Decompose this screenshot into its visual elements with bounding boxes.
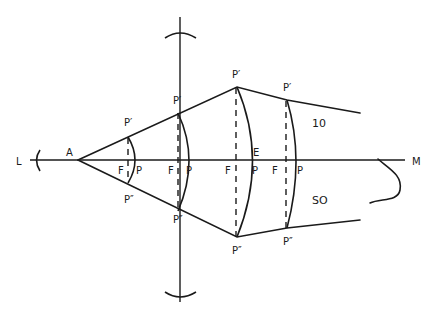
wavefront-2-pole: P [186, 165, 192, 176]
optical-axis [30, 150, 405, 171]
wavefront-3-pole: P [252, 165, 258, 176]
wavefront-3 [236, 87, 253, 237]
wavefront-4-pole: P [297, 165, 303, 176]
wavefront-1-pole: P [136, 165, 142, 176]
wavefront-4 [286, 100, 296, 228]
wavefront-2-top: P′ [173, 95, 182, 106]
wavefront-4-top: P′ [283, 82, 292, 93]
break-squiggle [370, 159, 400, 203]
wavefront-4-bottom: P″ [283, 236, 293, 247]
wavefront-3-extra: E [253, 147, 259, 158]
wavefront-1-focus: F [118, 165, 124, 176]
wavefront-3-focus: F [225, 165, 231, 176]
wavefront-2-bottom: P″ [173, 214, 183, 225]
source-label: A [66, 147, 73, 158]
wavefront-1-top: P′ [124, 117, 133, 128]
region-label-lower: SO [312, 194, 328, 207]
axis-label-left: L [16, 156, 22, 167]
wavefront-3-top: P′ [232, 69, 241, 80]
wavefront-diagram: L M A P′ P″ F P P′ P″ F P P′ P″ F P E P [0, 0, 440, 311]
axis-label-right: M [412, 156, 421, 167]
wavefront-4-focus: F [272, 165, 278, 176]
wavefront-3-bottom: P″ [232, 245, 242, 256]
region-label-upper: 10 [312, 117, 326, 130]
wavefront-1-bottom: P″ [124, 194, 134, 205]
wavefront-2-focus: F [168, 165, 174, 176]
